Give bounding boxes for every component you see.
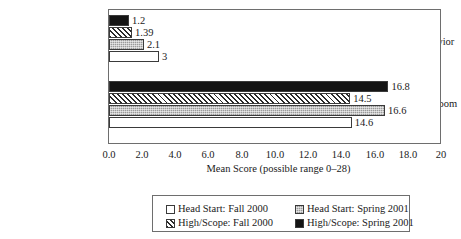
- x-axis-tick-1: 2.0: [127, 148, 157, 161]
- bar-cooperative-highscope-fall2000: [109, 93, 350, 104]
- x-axis-tick-7: 14.0: [326, 148, 356, 161]
- bar-cooperative-headstart-fall2000: [109, 117, 352, 128]
- chart-figure: Hyperactive behavior Cooperative classro…: [0, 0, 461, 239]
- legend-item-high-scope-fall-2000: High/Scope: Fall 2000: [166, 217, 273, 229]
- x-axis-tick-labels: 0.0 2.0 4.0 6.0 8.0 10.0 12.0 14.0 16.0 …: [0, 148, 461, 162]
- legend-item-label: Head Start: Fall 2000: [178, 203, 268, 215]
- plot-area: 1.2 1.39 2.1 3 16.8 14.5 16.6 14.6: [108, 9, 441, 144]
- bar-value-cooperative-headstart-fall2000: 14.6: [352, 117, 373, 128]
- x-axis-tick-2: 4.0: [160, 148, 190, 161]
- bar-cooperative-highscope-spring2001: [109, 81, 388, 92]
- bar-hyperactive-highscope-fall2000: [109, 27, 132, 38]
- legend-item-label: Head Start: Spring 2001: [307, 203, 409, 215]
- x-axis-title: Mean Score (possible range 0–28): [0, 163, 461, 174]
- x-axis-tick-3: 6.0: [193, 148, 223, 161]
- x-axis-tick-0: 0.0: [94, 148, 124, 161]
- legend-item-label: High/Scope: Fall 2000: [178, 217, 273, 229]
- bar-value-cooperative-highscope-spring2001: 16.8: [388, 81, 409, 92]
- legend-item-high-scope-spring-2001: High/Scope: Spring 2001: [295, 217, 414, 229]
- x-axis-tick-10: 20: [426, 148, 456, 161]
- x-axis-tick-4: 8.0: [227, 148, 257, 161]
- legend-item-label: High/Scope: Spring 2001: [307, 217, 414, 229]
- bar-value-hyperactive-headstart-fall2000: 3: [159, 51, 167, 62]
- white-swatch-icon: [166, 205, 175, 214]
- x-axis-tick-9: 18.0: [393, 148, 423, 161]
- bar-cooperative-headstart-spring2001: [109, 105, 385, 116]
- chart-legend: Head Start: Fall 2000 High/Scope: Fall 2…: [152, 195, 410, 232]
- bar-value-hyperactive-highscope-spring2001: 1.2: [129, 15, 145, 26]
- bar-value-hyperactive-headstart-spring2001: 2.1: [144, 39, 160, 50]
- bar-hyperactive-highscope-spring2001: [109, 15, 129, 26]
- legend-item-head-start-fall-2000: Head Start: Fall 2000: [166, 203, 268, 215]
- x-axis-tick-5: 10.0: [260, 148, 290, 161]
- bar-hyperactive-headstart-fall2000: [109, 51, 159, 62]
- hatched-swatch-icon: [166, 219, 175, 228]
- bar-value-hyperactive-highscope-fall2000: 1.39: [132, 27, 153, 38]
- black-swatch-icon: [295, 219, 304, 228]
- bar-value-cooperative-highscope-fall2000: 14.5: [350, 93, 371, 104]
- bar-hyperactive-headstart-spring2001: [109, 39, 144, 50]
- x-axis-tick-8: 16.0: [360, 148, 390, 161]
- bar-value-cooperative-headstart-spring2001: 16.6: [385, 105, 406, 116]
- x-axis-tick-6: 12.0: [293, 148, 323, 161]
- legend-item-head-start-spring-2001: Head Start: Spring 2001: [295, 203, 409, 215]
- gray-swatch-icon: [295, 205, 304, 214]
